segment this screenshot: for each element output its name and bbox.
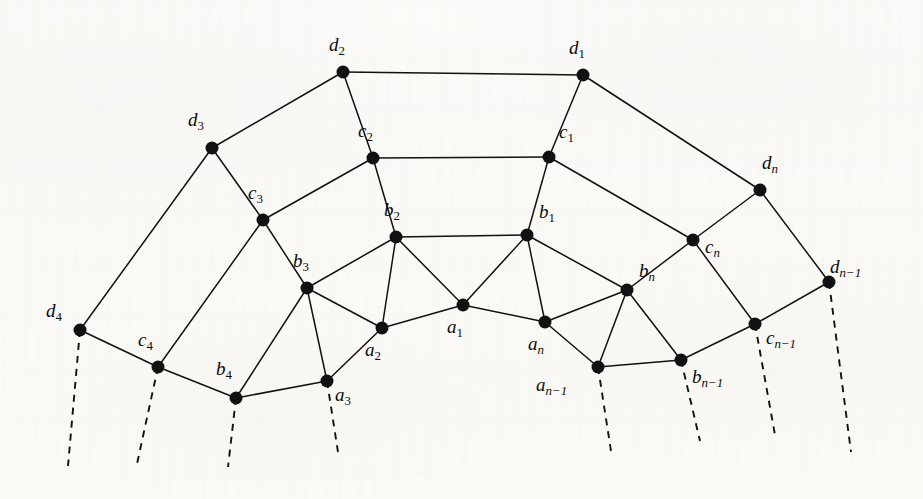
vertex-label-base: b	[216, 358, 226, 379]
edge-a1-b2	[396, 237, 463, 305]
vertex-label-subscript: n−1	[774, 336, 796, 351]
vertex-label-base: b	[293, 250, 303, 271]
vertex-label-subscript: 1	[567, 130, 573, 145]
edge-cn-cn1	[693, 240, 755, 324]
vertex-label-cn: cn	[705, 237, 720, 260]
vertex-c1[interactable]	[543, 151, 556, 164]
edge-bn-cn	[627, 240, 693, 290]
vertex-label-c3: c3	[248, 183, 263, 206]
vertex-label-base: d	[830, 256, 840, 277]
vertex-bn[interactable]	[621, 284, 634, 297]
vertex-label-dn: dn	[762, 153, 778, 176]
vertex-bn1[interactable]	[675, 354, 688, 367]
vertex-label-base: b	[639, 260, 649, 281]
vertex-d3[interactable]	[206, 142, 219, 155]
edge-a1-b1	[463, 235, 527, 305]
edge-c2-d2	[343, 72, 373, 158]
vertex-label-subscript: 3	[198, 118, 204, 133]
vertex-an[interactable]	[539, 316, 552, 329]
vertex-label-subscript: 4	[226, 367, 232, 382]
vertex-label-cn1: cn−1	[766, 328, 796, 351]
vertex-b3[interactable]	[301, 282, 314, 295]
edge-a3-b4	[236, 381, 327, 398]
edge-d1-dn	[583, 75, 760, 190]
dashed-edge-d4	[68, 330, 80, 466]
vertex-label-subscript: 3	[345, 393, 351, 408]
vertex-label-base: a	[447, 316, 457, 337]
vertex-label-c1: c1	[559, 122, 574, 145]
edge-d2-d3	[212, 72, 343, 148]
dashed-edge-dn1	[829, 282, 851, 452]
vertex-label-base: b	[384, 199, 394, 220]
edge-an1-bn	[598, 290, 627, 367]
vertex-label-subscript: 3	[303, 259, 309, 274]
vertex-label-d3: d3	[188, 110, 204, 133]
vertex-label-subscript: 1	[549, 210, 555, 225]
vertex-b1[interactable]	[521, 229, 534, 242]
edge-a3-b3	[307, 288, 327, 381]
vertex-cn[interactable]	[687, 234, 700, 247]
vertex-b2[interactable]	[390, 231, 403, 244]
vertex-b4[interactable]	[230, 392, 243, 405]
vertex-label-c2: c2	[358, 121, 373, 144]
vertex-label-an: an	[528, 334, 544, 357]
vertex-label-base: d	[329, 34, 339, 55]
edge-bn-bn1	[627, 290, 681, 360]
edge-cn1-dn1	[755, 282, 829, 324]
vertex-label-subscript: n−1	[702, 375, 724, 390]
vertex-label-subscript: 2	[394, 208, 400, 223]
vertex-label-base: d	[569, 37, 579, 58]
vertex-a3[interactable]	[321, 375, 334, 388]
vertex-d2[interactable]	[337, 66, 350, 79]
vertex-label-subscript: 3	[256, 191, 262, 206]
vertex-label-d2: d2	[329, 35, 345, 58]
figure-root: a1a2a3anan−1b1b2b3b4bnbn−1c1c2c3c4cncn−1…	[0, 0, 923, 499]
vertex-label-subscript: n−1	[546, 383, 568, 398]
vertex-label-dn1: dn−1	[830, 257, 861, 280]
edge-b3-b4	[236, 288, 307, 398]
vertex-c3[interactable]	[257, 214, 270, 227]
edge-dn-dn1	[760, 190, 829, 282]
edge-cn-dn	[693, 190, 760, 240]
edge-c3-c4	[158, 220, 263, 367]
vertex-a2[interactable]	[376, 322, 389, 335]
vertex-label-b1: b1	[539, 202, 555, 225]
vertex-label-subscript: 1	[457, 325, 463, 340]
edge-d3-d4	[80, 148, 212, 330]
vertex-label-base: a	[528, 333, 538, 354]
edge-an-an1	[545, 322, 598, 367]
vertex-label-subscript: n	[538, 342, 544, 357]
vertex-cn1[interactable]	[749, 318, 762, 331]
edge-a2-b2	[382, 237, 396, 328]
vertex-label-d1: d1	[569, 38, 585, 61]
vertex-label-subscript: 4	[56, 309, 62, 324]
vertex-d1[interactable]	[577, 69, 590, 82]
edge-a2-b3	[307, 288, 382, 328]
edge-an1-bn1	[598, 360, 681, 367]
vertex-d4[interactable]	[74, 324, 87, 337]
edge-b2-c2	[373, 158, 396, 237]
vertex-label-base: d	[46, 300, 56, 321]
vertex-label-an1: an−1	[536, 375, 567, 398]
vertex-label-c4: c4	[138, 330, 153, 353]
vertex-label-base: b	[539, 201, 549, 222]
edge-an-b1	[527, 235, 545, 322]
edge-bn1-cn1	[681, 324, 755, 360]
vertex-c4[interactable]	[152, 361, 165, 374]
vertex-a1[interactable]	[457, 299, 470, 312]
edge-b1-bn	[527, 235, 627, 290]
vertex-label-b3: b3	[293, 251, 309, 274]
dashed-edge-b4	[228, 398, 236, 467]
edge-a1-an	[463, 305, 545, 322]
vertex-c2[interactable]	[367, 152, 380, 165]
edge-c2-c3	[263, 158, 373, 220]
vertex-label-subscript: 4	[146, 338, 152, 353]
vertex-label-subscript: n−1	[840, 265, 862, 280]
edge-b1-b2	[396, 235, 527, 237]
vertex-label-base: b	[692, 366, 702, 387]
vertex-an1[interactable]	[592, 361, 605, 374]
vertex-dn[interactable]	[754, 184, 767, 197]
vertex-label-subscript: 2	[366, 129, 372, 144]
edge-d1-d2	[343, 72, 583, 75]
vertex-label-subscript: n	[649, 269, 655, 284]
